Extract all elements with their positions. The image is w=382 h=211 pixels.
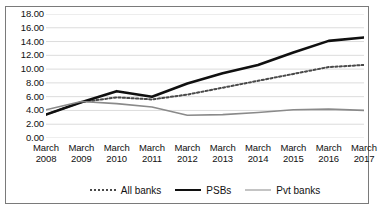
legend-item-2[interactable]: PSBs	[175, 185, 231, 196]
plot-area	[46, 14, 364, 138]
chart-legend: All banksPSBsPvt banks	[46, 182, 364, 198]
y-tick-label: 2.00	[4, 119, 44, 129]
series-line-3	[46, 101, 364, 115]
legend-item-3[interactable]: Pvt banks	[245, 185, 320, 196]
x-axis: March2008March2009March2010March2011Marc…	[46, 142, 364, 172]
y-tick-label: 6.00	[4, 92, 44, 102]
legend-swatch-icon	[245, 186, 271, 194]
legend-label: PSBs	[206, 185, 231, 196]
legend-label: All banks	[121, 185, 162, 196]
y-axis: 18.0016.0014.0012.0010.008.006.004.002.0…	[0, 0, 44, 160]
y-tick-label: 14.00	[4, 37, 44, 47]
legend-label: Pvt banks	[276, 185, 320, 196]
x-tick-line: March	[343, 142, 382, 153]
y-tick-label: 10.00	[4, 64, 44, 74]
x-tick-line: 2017	[343, 153, 382, 164]
x-tick-label: March2017	[343, 142, 382, 164]
y-tick-label: 18.00	[4, 9, 44, 19]
y-tick-label: 8.00	[4, 78, 44, 88]
legend-swatch-icon	[175, 186, 201, 194]
line-chart-svg	[46, 14, 364, 138]
y-tick-label: 4.00	[4, 105, 44, 115]
legend-item-1[interactable]: All banks	[90, 185, 162, 196]
y-tick-label: 16.00	[4, 23, 44, 33]
legend-swatch-icon	[90, 186, 116, 194]
series-line-1	[46, 65, 364, 115]
y-tick-label: 12.00	[4, 50, 44, 60]
